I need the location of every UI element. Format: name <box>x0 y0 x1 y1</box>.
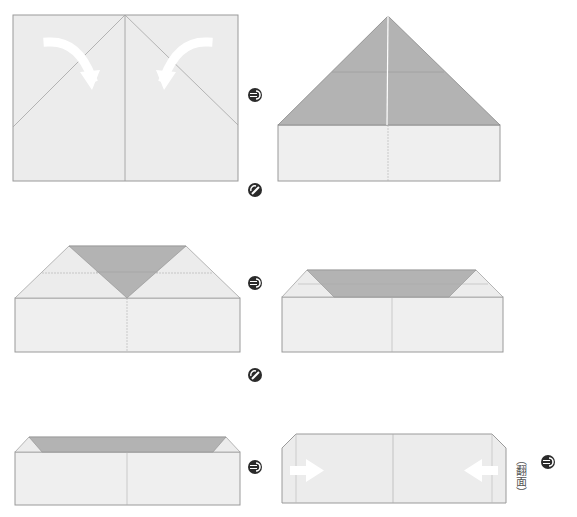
step-4-shape <box>282 270 503 352</box>
next-step-icon <box>541 455 555 469</box>
next-step-icon <box>248 276 262 290</box>
step-6-shape <box>282 434 506 503</box>
step-1-sheet <box>13 15 238 181</box>
folding-diagram <box>0 0 577 517</box>
next-step-icon <box>248 460 262 474</box>
step-5-shape <box>15 437 240 505</box>
step-2-shape <box>278 16 500 181</box>
step-3-shape <box>15 246 240 352</box>
next-row-icon <box>248 183 262 197</box>
next-row-icon <box>248 368 262 382</box>
next-step-icon <box>248 88 262 102</box>
flip-over-label: （翻面） <box>512 454 526 498</box>
